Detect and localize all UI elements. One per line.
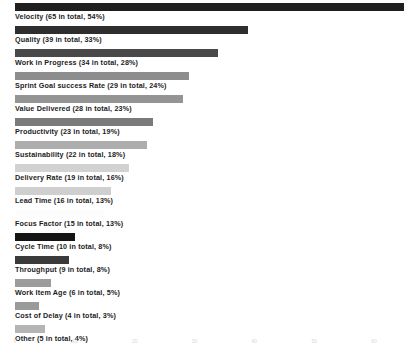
bar-label: Lead Time (16 in total, 13%)	[15, 195, 113, 206]
bar-track	[15, 118, 404, 126]
bar-track	[15, 141, 404, 149]
bar-label: Quality (39 in total, 33%)	[15, 34, 102, 45]
bar-fill	[15, 325, 45, 333]
axis-tick-label: 50	[311, 337, 317, 345]
bar-chart: Velocity (65 in total, 54%)Quality (39 i…	[0, 0, 418, 355]
bar-label: Throughput (9 in total, 8%)	[15, 264, 110, 275]
bar-row: Cycle Time (10 in total, 8%)	[0, 230, 418, 253]
axis-tick-label: 60	[371, 337, 377, 345]
bar-row: Sustainability (22 in total, 18%)	[0, 138, 418, 161]
bar-track	[15, 187, 404, 195]
bar-fill	[15, 187, 111, 195]
bar-track	[15, 3, 404, 11]
bar-row: Focus Factor (15 in total, 13%)	[0, 207, 418, 230]
bar-label: Work in Progress (34 in total, 28%)	[15, 57, 138, 68]
bar-row: Work in Progress (34 in total, 28%)	[0, 46, 418, 69]
bar-track	[15, 164, 404, 172]
bar-fill	[15, 279, 51, 287]
bar-label: Sustainability (22 in total, 18%)	[15, 149, 125, 160]
chart-plot-area: Velocity (65 in total, 54%)Quality (39 i…	[0, 0, 418, 337]
bar-row: Sprint Goal success Rate (29 in total, 2…	[0, 69, 418, 92]
bar-label: Productivity (23 in total, 19%)	[15, 126, 120, 137]
bar-track	[15, 256, 404, 264]
bar-row: Throughput (9 in total, 8%)	[0, 253, 418, 276]
axis-tick-label: 10	[72, 337, 78, 345]
bar-row: Productivity (23 in total, 19%)	[0, 115, 418, 138]
bar-fill	[15, 26, 248, 34]
bar-label: Cost of Delay (4 in total, 3%)	[15, 310, 116, 321]
bar-track	[15, 279, 404, 287]
bar-row: Quality (39 in total, 33%)	[0, 23, 418, 46]
axis-tick-label: 30	[192, 337, 198, 345]
bar-row: Work Item Age (6 in total, 5%)	[0, 276, 418, 299]
bar-track	[15, 49, 404, 57]
bar-row: Cost of Delay (4 in total, 3%)	[0, 299, 418, 322]
bar-row: Lead Time (16 in total, 13%)	[0, 184, 418, 207]
bar-fill	[15, 256, 69, 264]
bar-fill	[15, 49, 218, 57]
bar-fill	[15, 95, 183, 103]
bar-track	[15, 233, 404, 241]
bar-label: Cycle Time (10 in total, 8%)	[15, 241, 112, 252]
bar-track	[15, 72, 404, 80]
bar-fill	[15, 3, 404, 11]
bar-fill	[15, 72, 189, 80]
bar-track	[15, 95, 404, 103]
bar-label: Focus Factor (15 in total, 13%)	[15, 218, 123, 229]
bar-track	[15, 210, 404, 218]
axis-tick-label: 0	[14, 337, 17, 345]
axis-tick-label: 40	[252, 337, 258, 345]
bar-track	[15, 302, 404, 310]
x-axis: 0102030405060	[0, 337, 418, 349]
bar-fill	[15, 210, 105, 218]
bar-track	[15, 325, 404, 333]
bar-row: Value Delivered (28 in total, 23%)	[0, 92, 418, 115]
bar-label: Sprint Goal success Rate (29 in total, 2…	[15, 80, 167, 91]
bar-label: Velocity (65 in total, 54%)	[15, 11, 105, 22]
bar-label: Work Item Age (6 in total, 5%)	[15, 287, 120, 298]
bar-track	[15, 26, 404, 34]
bar-fill	[15, 118, 153, 126]
bar-fill	[15, 233, 75, 241]
bar-fill	[15, 302, 39, 310]
axis-tick-label: 20	[132, 337, 138, 345]
bar-row: Delivery Rate (19 in total, 16%)	[0, 161, 418, 184]
bar-fill	[15, 164, 129, 172]
bar-label: Value Delivered (28 in total, 23%)	[15, 103, 132, 114]
bar-label: Delivery Rate (19 in total, 16%)	[15, 172, 124, 183]
bar-fill	[15, 141, 147, 149]
bar-row: Velocity (65 in total, 54%)	[0, 0, 418, 23]
